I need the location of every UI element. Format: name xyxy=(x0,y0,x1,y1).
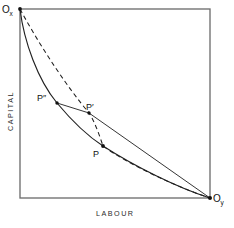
box-frame xyxy=(20,9,210,198)
diagram-canvas: O x O y P″ P′ P CAPITAL LABOUR xyxy=(0,0,234,228)
point-dot-p-double-prime xyxy=(55,101,58,104)
point-label-p-prime: P′ xyxy=(86,102,94,112)
origin-dot-ox xyxy=(18,7,22,11)
point-dot-p xyxy=(101,144,105,148)
point-label-p: P xyxy=(93,149,99,159)
y-axis-title: CAPITAL xyxy=(6,91,15,131)
point-label-p-double-prime: P″ xyxy=(37,93,47,103)
origin-label-oy-subscript: y xyxy=(221,199,225,207)
dashed-exchange-path xyxy=(20,9,210,198)
x-axis-title: LABOUR xyxy=(96,209,135,218)
origin-label-ox-subscript: x xyxy=(10,10,14,17)
edgeworth-box-diagram: O x O y P″ P′ P CAPITAL LABOUR xyxy=(0,0,234,228)
contract-curve-solid xyxy=(20,9,210,198)
chord-line-ppp-to-oy xyxy=(57,103,210,198)
origin-dot-oy xyxy=(208,196,212,200)
